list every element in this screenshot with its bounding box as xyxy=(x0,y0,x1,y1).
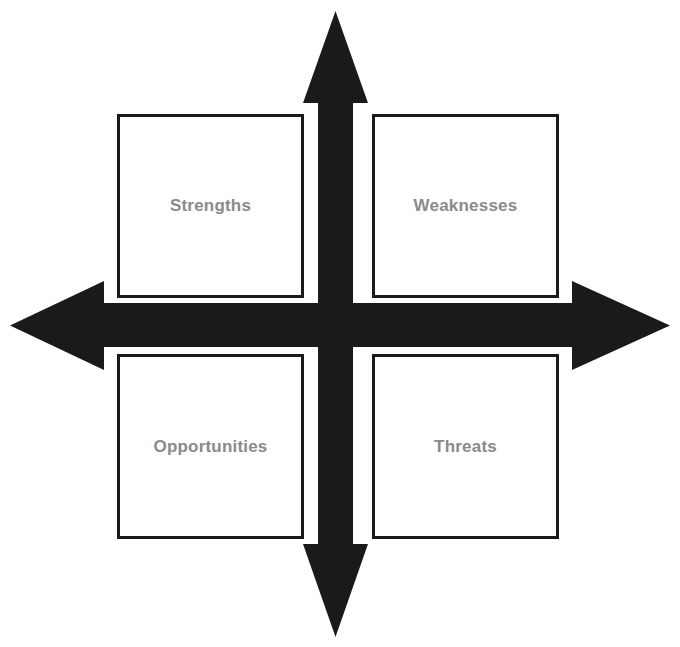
quadrant-opportunities[interactable]: Opportunities xyxy=(117,354,304,539)
swot-diagram: Strengths Weaknesses Opportunities Threa… xyxy=(0,0,680,647)
quadrant-strengths[interactable]: Strengths xyxy=(117,114,304,298)
quadrant-weaknesses[interactable]: Weaknesses xyxy=(372,114,559,298)
cross-arrows-graphic xyxy=(0,0,680,647)
quadrant-label-weaknesses: Weaknesses xyxy=(414,196,518,216)
quadrant-label-strengths: Strengths xyxy=(170,196,251,216)
quadrant-label-threats: Threats xyxy=(434,437,497,457)
quadrant-label-opportunities: Opportunities xyxy=(153,437,267,457)
quadrant-threats[interactable]: Threats xyxy=(372,354,559,539)
